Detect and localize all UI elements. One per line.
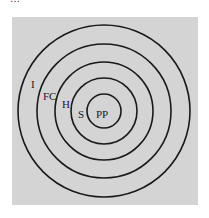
label-h: H xyxy=(62,98,70,110)
concentric-circles-diagram: I FC H S PP xyxy=(0,0,209,218)
label-i: I xyxy=(31,78,35,90)
label-fc: FC xyxy=(43,90,56,102)
label-pp: PP xyxy=(96,108,108,120)
label-s: S xyxy=(78,108,84,120)
